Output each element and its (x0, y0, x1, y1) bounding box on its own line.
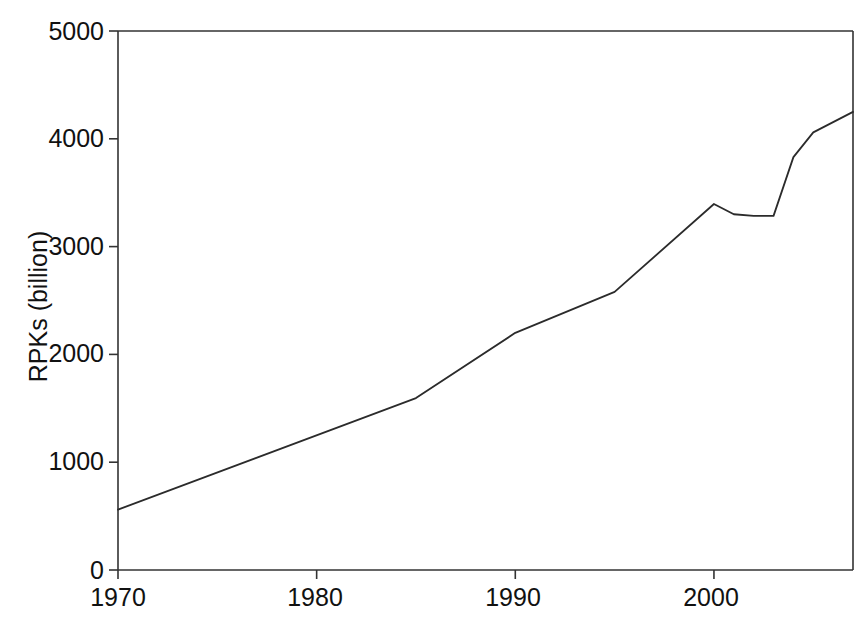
x-tick-label-2000: 2000 (641, 585, 781, 610)
y-tick-label-0: 0 (8, 558, 104, 583)
x-tick-label-1980: 1980 (245, 585, 385, 610)
y-tick-label-2000: 2000 (8, 341, 104, 366)
y-tick-label-3000: 3000 (8, 234, 104, 259)
x-tick-label-1990: 1990 (443, 585, 583, 610)
plot-area (0, 0, 862, 627)
y-tick-label-1000: 1000 (8, 449, 104, 474)
y-tick-label-5000: 5000 (8, 19, 104, 44)
line-chart: RPKs (billion) 5000 4000 3000 2000 1000 … (0, 0, 862, 627)
y-tick-label-4000: 4000 (8, 126, 104, 151)
y-axis-tick-labels: 5000 4000 3000 2000 1000 0 (0, 0, 104, 627)
x-tick-label-1970: 1970 (48, 585, 188, 610)
plot-background (118, 31, 853, 570)
